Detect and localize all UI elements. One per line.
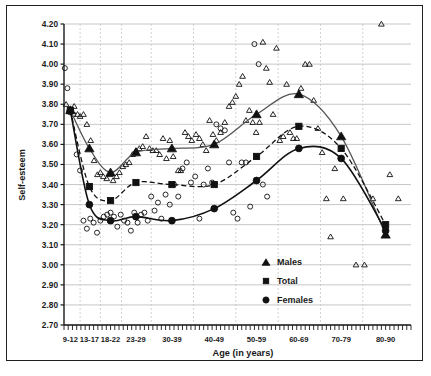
y-axis-title: Self-esteem	[17, 149, 27, 201]
scatter-point-male	[81, 112, 87, 117]
mean-marker-females	[382, 227, 389, 234]
x-tick-label: 50-59	[247, 335, 266, 344]
scatter-point-male	[387, 172, 393, 177]
scatter-point-female	[152, 208, 157, 213]
scatter-point-female	[231, 210, 236, 215]
scatter-point-male	[230, 100, 236, 105]
mean-marker-females	[338, 155, 345, 162]
x-axis-tick-labels: 9-1213-1718-2223-2930-3940-4950-5960-697…	[63, 335, 396, 344]
scatter-point-male	[182, 130, 188, 135]
scatter-point-male	[340, 196, 346, 201]
mean-marker-females	[169, 217, 176, 224]
y-tick-label: 2.90	[42, 280, 59, 290]
scatter-point-female	[176, 194, 181, 199]
mean-marker-total	[253, 153, 259, 159]
scatter-point-male	[210, 132, 216, 137]
y-tick-label: 3.60	[42, 139, 59, 149]
trend-line-females	[70, 110, 385, 230]
scatter-point-female	[235, 216, 240, 221]
scatter-point-male	[270, 112, 276, 117]
mean-marker-total	[296, 123, 302, 129]
legend-label-males: Males	[277, 257, 302, 267]
scatter-point-male	[246, 108, 252, 113]
scatter-point-male	[263, 65, 269, 70]
y-tick-label: 3.50	[42, 159, 59, 169]
scatter-point-female	[65, 86, 70, 91]
mean-marker-females	[133, 213, 140, 220]
scatter-point-female	[197, 216, 202, 221]
scatter-point-male	[170, 154, 176, 159]
mean-marker-total	[107, 197, 113, 203]
mean-marker-females	[253, 177, 260, 184]
mean-marker-females	[86, 201, 93, 208]
scatter-point-male	[203, 148, 209, 153]
y-tick-label: 3.10	[42, 240, 59, 250]
x-tick-label: 70-79	[331, 335, 350, 344]
y-tick-label: 2.80	[42, 300, 59, 310]
scatter-point-male	[167, 138, 173, 143]
y-tick-label: 3.40	[42, 180, 59, 190]
mean-marker-females	[295, 145, 302, 152]
scatter-point-male	[126, 160, 132, 165]
x-tick-label: 23-29	[126, 335, 145, 344]
y-tick-label: 4.00	[42, 59, 59, 69]
y-tick-label: 4.10	[42, 39, 59, 49]
legend-label-females: Females	[277, 295, 313, 305]
scatter-point-male	[207, 118, 213, 123]
scatter-point-female	[95, 230, 100, 235]
scatter-point-male	[88, 138, 94, 143]
legend-marker-total	[263, 278, 268, 283]
legend-marker-males	[262, 259, 270, 265]
trend-line-total	[70, 110, 385, 224]
mean-marker-total	[169, 181, 175, 187]
mean-marker-total	[338, 145, 344, 151]
scatter-point-male	[164, 156, 170, 161]
mean-marker-total	[133, 179, 139, 185]
y-tick-label: 3.00	[42, 260, 59, 270]
scatter-point-female	[84, 226, 89, 231]
scatter-point-male	[250, 120, 256, 125]
x-tick-label: 13-17	[80, 335, 99, 344]
scatter-point-male	[332, 166, 338, 171]
scatter-point-male	[253, 130, 259, 135]
mean-marker-males	[252, 110, 261, 118]
y-axis-tick-labels: 4.204.104.003.903.803.703.603.503.403.30…	[42, 19, 64, 330]
mean-marker-total	[86, 183, 92, 189]
legend-marker-females	[263, 297, 269, 303]
mean-marker-males	[337, 132, 346, 140]
y-tick-label: 3.80	[42, 99, 59, 109]
scatter-point-female	[205, 166, 210, 171]
y-tick-label: 3.90	[42, 79, 59, 89]
scatter-point-male	[328, 234, 334, 239]
x-tick-label: 9-12	[63, 335, 78, 344]
y-tick-label: 3.70	[42, 119, 59, 129]
x-tick-label: 80-90	[376, 335, 395, 344]
scatter-point-male	[240, 73, 246, 78]
scatter-point-male	[222, 120, 228, 125]
mean-marker-females	[67, 107, 74, 114]
group-mean-markers	[66, 90, 391, 238]
legend: MalesTotalFemales	[262, 257, 313, 305]
legend-label-total: Total	[277, 276, 298, 286]
scatter-point-male	[257, 120, 263, 125]
scatter-point-male	[267, 79, 273, 84]
scatter-point-male	[260, 39, 266, 44]
mean-marker-males	[210, 140, 219, 148]
x-axis-title: Age (in years)	[213, 348, 274, 358]
scatter-point-male	[160, 136, 166, 141]
scatter-point-female	[222, 128, 227, 133]
chart-canvas: 4.204.104.003.903.803.703.603.503.403.30…	[0, 0, 431, 376]
scatter-point-female	[163, 192, 168, 197]
scatter-point-male	[193, 132, 199, 137]
self-esteem-by-age-chart: 4.204.104.003.903.803.703.603.503.403.30…	[0, 0, 431, 376]
mean-marker-females	[107, 217, 114, 224]
scatter-point-male	[324, 196, 330, 201]
mean-marker-total	[211, 181, 217, 187]
x-tick-label: 60-69	[289, 335, 308, 344]
scatter-point-female	[128, 228, 133, 233]
y-tick-label: 3.30	[42, 200, 59, 210]
scatter-point-female	[118, 212, 123, 217]
scatter-point-female	[81, 218, 86, 223]
x-axis-minor-ticks	[64, 325, 411, 330]
y-tick-label: 3.20	[42, 220, 59, 230]
